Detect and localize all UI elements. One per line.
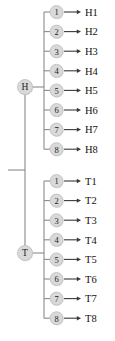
branch-h-outcome-2: H2 — [85, 26, 98, 37]
branch-h-arrowhead-4 — [77, 69, 81, 73]
branch-t-outcome-6: T6 — [85, 274, 97, 285]
branch-h-node-number-1: 1 — [54, 7, 58, 17]
branch-h-arrowhead-5 — [77, 88, 81, 92]
branch-t-arrowhead-5 — [77, 257, 81, 261]
branch-h-arrowhead-8 — [77, 147, 81, 151]
branch-t-outcome-2: T2 — [85, 195, 97, 206]
node-group: H1H12H23H34H45H56H67H78H8T1T12T23T34T45T… — [18, 6, 99, 326]
branch-t-outcome-3: T3 — [85, 215, 97, 226]
branch-h-arrowhead-3 — [77, 49, 81, 53]
branch-h-arrowhead-7 — [77, 127, 81, 131]
branch-h-outcome-8: H8 — [85, 144, 98, 155]
branch-t-node-number-1: 1 — [54, 176, 58, 186]
branch-t-arrowhead-6 — [77, 277, 81, 281]
branch-t-node-number-7: 7 — [54, 294, 58, 304]
branch-t-arrowhead-8 — [77, 316, 81, 320]
branch-h-label: H — [22, 82, 29, 92]
branch-t-node-number-8: 8 — [54, 314, 58, 324]
edge-group — [8, 10, 81, 321]
tree-diagram: H1H12H23H34H45H56H67H78H8T1T12T23T34T45T… — [0, 0, 115, 341]
branch-h-outcome-6: H6 — [85, 105, 98, 116]
branch-h-outcome-1: H1 — [85, 7, 98, 18]
branch-t-arrowhead-7 — [77, 296, 81, 300]
branch-t-node-number-3: 3 — [54, 216, 58, 226]
branch-t-outcome-5: T5 — [85, 254, 97, 265]
branch-t-node-number-6: 6 — [54, 274, 58, 284]
branch-h-arrowhead-6 — [77, 108, 81, 112]
branch-h-outcome-4: H4 — [85, 66, 99, 77]
branch-t-arrowhead-4 — [77, 238, 81, 242]
branch-h-node-number-5: 5 — [54, 86, 58, 96]
branch-h-node-number-3: 3 — [54, 47, 58, 57]
branch-h-node-number-7: 7 — [54, 125, 58, 135]
branch-h-node-number-8: 8 — [54, 145, 58, 155]
branch-t-arrowhead-3 — [77, 218, 81, 222]
branch-h-outcome-3: H3 — [85, 46, 98, 57]
branch-t-outcome-7: T7 — [85, 293, 97, 304]
branch-t-node-number-5: 5 — [54, 255, 58, 265]
branch-t-outcome-1: T1 — [85, 176, 97, 187]
branch-t-outcome-4: T4 — [85, 235, 97, 246]
tree-diagram-svg: H1H12H23H34H45H56H67H78H8T1T12T23T34T45T… — [0, 0, 115, 341]
branch-t-arrowhead-1 — [77, 179, 81, 183]
branch-h-outcome-7: H7 — [85, 124, 98, 135]
branch-h-arrowhead-1 — [77, 10, 81, 14]
branch-t-label: T — [22, 248, 28, 258]
branch-t-node-number-2: 2 — [54, 196, 58, 206]
branch-h-node-number-6: 6 — [54, 105, 58, 115]
branch-t-outcome-8: T8 — [85, 313, 97, 324]
branch-t-arrowhead-2 — [77, 198, 81, 202]
branch-h-arrowhead-2 — [77, 29, 81, 33]
branch-h-outcome-5: H5 — [85, 85, 98, 96]
branch-h-node-number-2: 2 — [54, 27, 58, 37]
